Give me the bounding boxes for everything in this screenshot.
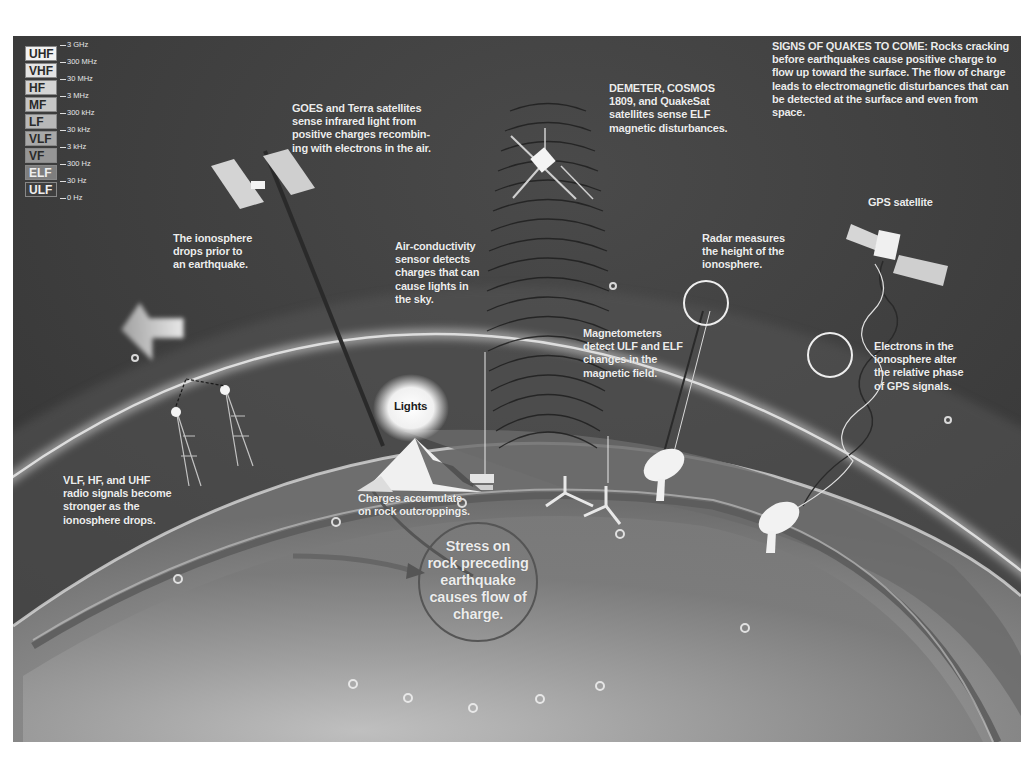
lights-label: Lights xyxy=(394,400,427,413)
freq-tick: 30 Hz xyxy=(60,176,87,185)
band-mf: MF xyxy=(25,97,57,112)
magnetometers-callout: Magnetometers detect ULF and ELF changes… xyxy=(583,327,683,380)
intro-title: SIGNS OF QUAKES TO COME: xyxy=(772,40,928,52)
band-vhf: VHF xyxy=(25,63,57,78)
radio-signals-callout: VLF, HF, and UHF radio signals become st… xyxy=(63,474,171,527)
band-lf: LF xyxy=(25,114,57,129)
air-conductivity-callout: Air-conductivity sensor detects charges … xyxy=(395,240,479,306)
ionosphere-drops-callout: The ionosphere drops prior to an earthqu… xyxy=(173,232,252,272)
freq-tick: 3 MHz xyxy=(60,91,89,100)
tower-light-2 xyxy=(220,385,230,395)
band-ulf: ULF xyxy=(25,182,57,197)
electrons-callout: Electrons in the ionosphere alter the re… xyxy=(874,340,963,393)
stress-callout: Stress on rock preceding earthquake caus… xyxy=(418,538,538,623)
goes-callout: GOES and Terra satellites sense infrared… xyxy=(292,102,431,155)
freq-tick: 300 MHz xyxy=(60,57,97,66)
band-vf: VF xyxy=(25,148,57,163)
freq-tick: 3 kHz xyxy=(60,142,86,151)
freq-tick: 30 kHz xyxy=(60,125,90,134)
charges-accumulate-callout: Charges accumulate on rock outcroppings. xyxy=(358,492,470,518)
diagram-frame: UHF VHF HF MF LF VLF VF ELF ULF 3 GHz 30… xyxy=(13,36,1021,742)
gps-satellite-label: GPS satellite xyxy=(868,196,933,209)
band-elf: ELF xyxy=(25,165,57,180)
freq-tick: 30 MHz xyxy=(60,74,93,83)
earthquake-precursor-illustration xyxy=(13,36,1021,742)
tower-light-1 xyxy=(171,407,181,417)
radar-callout: Radar measures the height of the ionosph… xyxy=(702,232,785,272)
freq-tick: 3 GHz xyxy=(60,40,88,49)
demeter-callout: DEMETER, COSMOS 1809, and QuakeSat satel… xyxy=(609,82,727,135)
band-hf: HF xyxy=(25,80,57,95)
intro-block: SIGNS OF QUAKES TO COME: Rocks cracking … xyxy=(772,40,1012,119)
band-uhf: UHF xyxy=(25,46,57,61)
band-vlf: VLF xyxy=(25,131,57,146)
freq-tick: 300 Hz xyxy=(60,159,91,168)
freq-tick: 0 Hz xyxy=(60,193,82,202)
freq-tick: 300 kHz xyxy=(60,108,95,117)
